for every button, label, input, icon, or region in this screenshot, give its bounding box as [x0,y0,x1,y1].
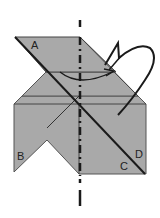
label-d: D [135,148,143,160]
loop-arrow-inner [109,56,121,70]
label-b: B [17,150,24,162]
label-a: A [31,39,39,51]
diagram-canvas: A B C D [0,0,160,218]
label-c: C [120,160,128,172]
origami-diagram: A B C D [0,0,160,218]
